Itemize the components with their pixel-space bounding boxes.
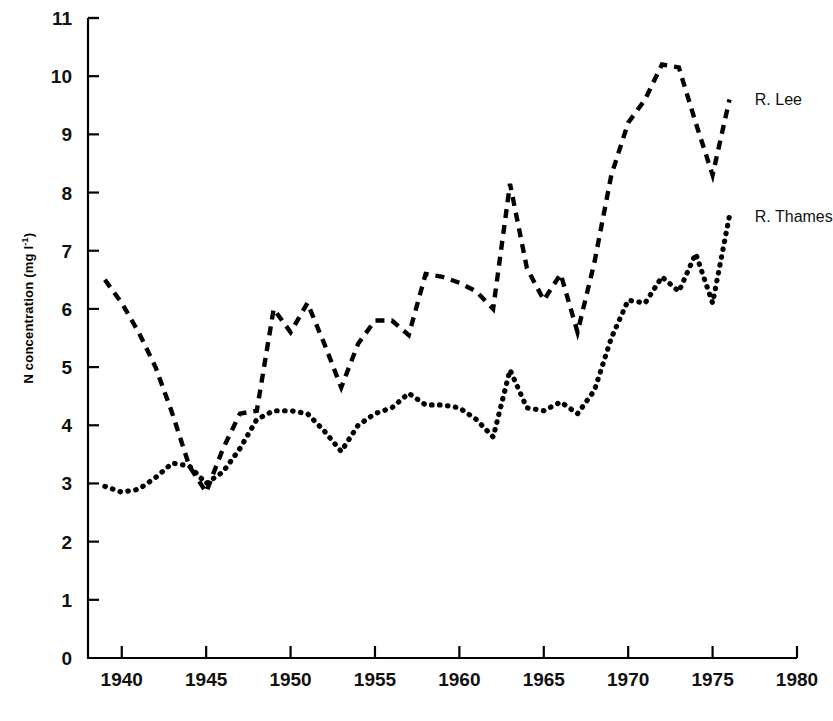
x-tick-label: 1945 — [185, 669, 228, 690]
chart-container: N concentration (mg l-1) 01234567891011 … — [0, 0, 833, 721]
series-label-r-thames: R. Thames — [755, 208, 833, 225]
x-tick-label: 1955 — [354, 669, 397, 690]
y-tick-label: 6 — [61, 299, 72, 320]
series-line-r-lee — [105, 65, 730, 493]
y-axis-label: N concentration (mg l-1) — [20, 128, 36, 488]
y-tick-label: 0 — [61, 648, 72, 669]
y-tick-label: 4 — [61, 415, 72, 436]
chart-plot-area: 01234567891011 1940194519501955196019651… — [0, 0, 833, 721]
y-tick-label: 11 — [52, 8, 73, 29]
series-line-r-thames — [105, 216, 730, 492]
x-tick-label: 1940 — [101, 669, 143, 690]
y-tick-label: 3 — [61, 473, 72, 494]
y-tick-label: 5 — [61, 357, 72, 378]
y-axis-label-text: N concentration (mg l-1) — [21, 233, 36, 384]
y-axis-ticks: 01234567891011 — [51, 8, 99, 669]
x-tick-label: 1970 — [607, 669, 649, 690]
y-tick-label: 9 — [61, 124, 72, 145]
x-tick-label: 1965 — [523, 669, 566, 690]
y-tick-label: 8 — [61, 183, 72, 204]
data-series — [105, 65, 730, 493]
y-tick-label: 10 — [51, 66, 72, 87]
x-tick-label: 1980 — [776, 669, 818, 690]
x-tick-label: 1975 — [691, 669, 734, 690]
y-tick-label: 7 — [61, 241, 72, 262]
x-tick-label: 1950 — [269, 669, 311, 690]
y-tick-label: 2 — [61, 532, 72, 553]
y-tick-label: 1 — [61, 590, 72, 611]
x-tick-label: 1960 — [438, 669, 480, 690]
axes — [88, 18, 797, 658]
series-annotations: R. LeeR. Thames — [755, 91, 833, 224]
series-label-r-lee: R. Lee — [755, 91, 802, 108]
x-axis-ticks: 194019451950195519601965197019751980 — [101, 646, 819, 690]
